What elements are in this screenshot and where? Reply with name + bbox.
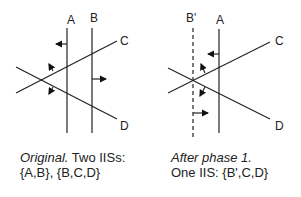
arrow-c — [201, 64, 205, 73]
caption-line2: One IIS: {B',C,D} — [171, 165, 268, 180]
label-b-prime: B' — [186, 11, 196, 25]
label-a: A — [67, 13, 75, 27]
left-caption: Original. Two IISs: {A,B}, {B,C,D} — [20, 150, 125, 180]
label-b: B — [90, 11, 98, 25]
left-panel — [16, 28, 117, 133]
caption-line2: {A,B}, {B,C,D} — [20, 165, 125, 180]
caption-rest: Two IISs: — [68, 150, 125, 165]
label-c: C — [275, 34, 284, 48]
label-d: D — [120, 119, 129, 133]
caption-italic: After phase 1. — [171, 150, 252, 165]
arrow-d — [200, 87, 205, 96]
arrow-d — [49, 87, 53, 94]
label-c: C — [120, 34, 129, 48]
right-caption: After phase 1. One IIS: {B',C,D} — [171, 150, 268, 180]
caption-italic: Original. — [20, 150, 68, 165]
right-panel — [168, 28, 270, 137]
label-d: D — [275, 119, 284, 133]
label-a: A — [216, 13, 224, 27]
arrow-c — [49, 64, 53, 71]
